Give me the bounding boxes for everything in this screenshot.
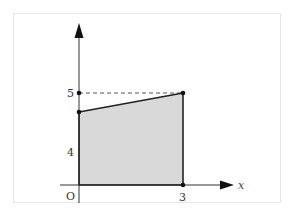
- origin-label: O: [66, 190, 75, 203]
- x-axis-label: x: [238, 179, 245, 192]
- x-tick-label-3: 3: [179, 191, 186, 204]
- point-left-top: [77, 110, 82, 115]
- y-tick-label-4: 4: [67, 146, 74, 159]
- point-y5: [77, 91, 82, 96]
- y-axis-arrow-icon: [75, 23, 84, 38]
- x-axis-arrow-icon: [220, 181, 234, 190]
- diagram-canvas: 5 4 O 3 x: [0, 0, 299, 220]
- point-right-top: [181, 91, 186, 96]
- point-x3: [181, 183, 186, 188]
- y-tick-label-5: 5: [67, 87, 74, 100]
- shaded-region: [79, 93, 183, 185]
